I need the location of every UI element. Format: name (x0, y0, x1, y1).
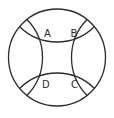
right-arc (72, 4, 114, 112)
bottom-arc (4, 73, 110, 118)
inner-arcs (0, 0, 113, 118)
label-c: C (71, 79, 78, 90)
label-b: B (71, 28, 78, 39)
label-a: A (44, 28, 51, 39)
outer-circle (9, 9, 106, 106)
label-d: D (42, 79, 50, 90)
top-arc (4, 0, 110, 42)
geometry-diagram: A B D C (0, 0, 113, 118)
left-arc (0, 4, 43, 112)
